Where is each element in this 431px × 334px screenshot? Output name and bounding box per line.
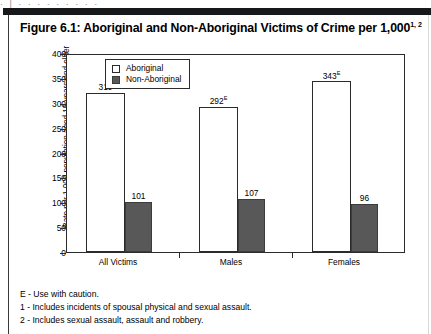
figure-title-text: Figure 6.1: Aboriginal and Non-Aborigina… <box>20 21 410 35</box>
x-axis-category-label: Females <box>328 257 360 267</box>
footnotes: E - Use with caution.1 - Includes incide… <box>20 288 410 327</box>
footnote-line: E - Use with caution. <box>20 288 410 301</box>
bar-value-label: 292E <box>210 94 228 106</box>
figure-title-superscript: 1, 2 <box>410 21 422 28</box>
y-axis-tick-mark <box>60 253 66 254</box>
x-axis-category-label: All Victims <box>99 257 137 267</box>
x-axis-category-label: Males <box>220 257 242 267</box>
bar-aboriginal-males: 292E <box>199 107 238 252</box>
document-border-left <box>8 15 9 334</box>
bar-aboriginal-females: 343E <box>312 81 351 252</box>
legend-swatch-icon-aboriginal <box>112 65 120 73</box>
scan-artifact-black-bar <box>3 8 431 15</box>
bar-value-label: 101 <box>132 192 146 201</box>
bar-value-label: 343E <box>323 69 341 81</box>
x-axis-tick-mark <box>292 253 293 258</box>
legend-item-aboriginal: Aboriginal <box>112 63 181 74</box>
legend-swatch-icon-non-aboriginal <box>112 76 120 84</box>
legend-label-aboriginal: Aboriginal <box>126 64 163 73</box>
document-border-right <box>428 15 429 334</box>
bar-aboriginal-all-victims: 319 <box>86 93 125 252</box>
legend-label-non-aboriginal: Non-Aboriginal <box>126 75 181 84</box>
scanned-page: · | · · · · · · · · · Figure 6.1: Aborig… <box>0 0 431 334</box>
bar-non-aboriginal-females: 96 <box>351 204 378 252</box>
footnote-line: 1 - Includes incidents of spousal physic… <box>20 301 410 314</box>
x-axis-tick-mark <box>179 253 180 258</box>
bar-non-aboriginal-males: 107 <box>238 199 265 252</box>
bar-value-flag: E <box>337 70 341 76</box>
bar-value-flag: E <box>224 95 228 101</box>
legend-item-non-aboriginal: Non-Aboriginal <box>112 74 181 85</box>
scan-artifact-top-text: · | · · · · · · · · · <box>0 0 431 8</box>
bar-chart: Rate per 1,000 population aged 15 years … <box>20 48 410 280</box>
bar-non-aboriginal-all-victims: 101 <box>125 202 152 252</box>
figure-title: Figure 6.1: Aboriginal and Non-Aborigina… <box>20 21 422 35</box>
bar-value-label: 96 <box>360 194 369 203</box>
footnote-line: 2 - Includes sexual assault, assault and… <box>20 314 410 327</box>
chart-legend: Aboriginal Non-Aboriginal <box>105 59 190 89</box>
bar-value-label: 107 <box>245 189 259 198</box>
